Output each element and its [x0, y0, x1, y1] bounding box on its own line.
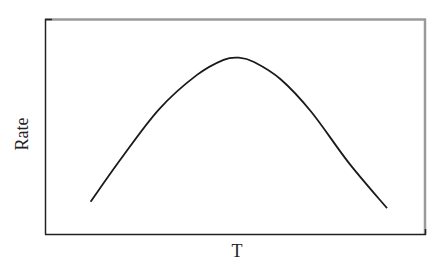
rate-curve — [91, 57, 387, 208]
chart: T Rate — [0, 0, 436, 271]
plot-area — [91, 57, 387, 208]
y-axis-label: Rate — [12, 118, 32, 151]
x-axis-label: T — [232, 241, 243, 261]
